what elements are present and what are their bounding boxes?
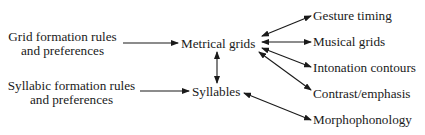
syllabic-rules-line2: and preferences [5, 93, 138, 107]
node-contrast-emphasis: Contrast/emphasis [313, 87, 410, 101]
node-morphophonology: Morphophonology [313, 113, 412, 127]
arrow-metrical-gesture [262, 16, 311, 36]
grid-rules-line2: and preferences [5, 44, 120, 58]
arrow-metrical-intonation [262, 48, 311, 67]
syllabic-rules-line1: Syllabic formation rules [5, 79, 138, 93]
node-metrical-grids: Metrical grids [181, 37, 255, 51]
node-intonation-contours: Intonation contours [313, 61, 416, 75]
node-musical-grids: Musical grids [313, 35, 385, 49]
node-syllabic-formation-rules: Syllabic formation rules and preferences [5, 79, 138, 107]
arrow-syllables-morpho [244, 93, 311, 120]
node-grid-formation-rules: Grid formation rules and preferences [5, 30, 120, 58]
node-syllables: Syllables [192, 85, 240, 99]
grid-rules-line1: Grid formation rules [5, 30, 120, 44]
node-gesture-timing: Gesture timing [313, 9, 392, 23]
arrow-metrical-contrast [259, 52, 311, 90]
